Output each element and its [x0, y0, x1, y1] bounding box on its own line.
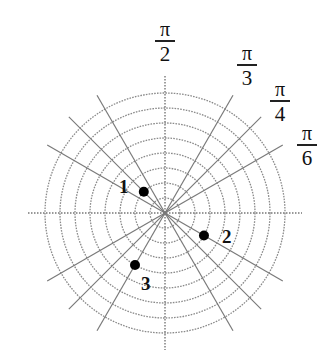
- point-2: [199, 231, 209, 241]
- numerator: π: [150, 20, 180, 38]
- point-3: [130, 260, 140, 270]
- angle-label-pi-over-4: π 4: [265, 80, 295, 124]
- point-label-2: 2: [222, 227, 232, 246]
- angle-label-pi-over-3: π 3: [232, 44, 262, 88]
- point-1: [139, 187, 149, 197]
- numerator: π: [232, 44, 262, 62]
- denominator: 4: [265, 104, 295, 124]
- angle-label-pi-over-6: π 6: [292, 124, 322, 168]
- denominator: 2: [150, 44, 180, 64]
- point-label-3: 3: [141, 274, 151, 293]
- point-label-1: 1: [119, 177, 129, 196]
- numerator: π: [292, 124, 322, 142]
- angle-label-pi-over-2: π 2: [150, 20, 180, 64]
- denominator: 6: [292, 148, 322, 168]
- denominator: 3: [232, 68, 262, 88]
- numerator: π: [265, 80, 295, 98]
